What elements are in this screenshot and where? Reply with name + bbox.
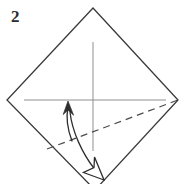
origami-diagram-canvas xyxy=(0,0,190,184)
step-number-label: 2 xyxy=(11,7,20,27)
origami-step-figure: 2 xyxy=(0,0,190,184)
